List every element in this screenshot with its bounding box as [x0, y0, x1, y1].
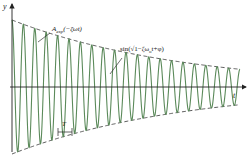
wave-label-rest: t+φ) — [152, 45, 164, 53]
period-label: T — [62, 121, 66, 128]
envelope-label-leader — [38, 33, 50, 42]
damped-oscillation-diagram — [0, 0, 252, 160]
envelope-label-rest: (−ζωt) — [63, 25, 82, 33]
wave-label-main: sin(√1−ζω — [120, 45, 149, 53]
damped-oscillation-curve — [12, 20, 240, 152]
envelope-label: Aexp(−ζωt) — [52, 26, 82, 34]
t-axis-label: t — [233, 92, 235, 100]
y-axis-label: y — [3, 3, 7, 11]
lower-envelope — [12, 105, 240, 154]
wave-label: sin(√1−ζωot+φ) — [120, 46, 164, 54]
